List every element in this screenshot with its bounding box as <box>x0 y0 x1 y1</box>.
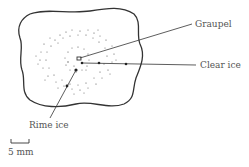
scale-bar-label: 5 mm <box>8 148 34 157</box>
scale-bar <box>11 139 29 143</box>
graupel-core <box>77 57 81 60</box>
clear-ice-label: Clear ice <box>200 61 241 70</box>
rime-ice-leader <box>50 70 76 118</box>
graupel-leader <box>80 24 192 58</box>
stipple-rime-ice <box>36 30 117 95</box>
rime-ice-label: Rime ice <box>29 121 69 130</box>
graupel-label: Graupel <box>195 20 232 29</box>
